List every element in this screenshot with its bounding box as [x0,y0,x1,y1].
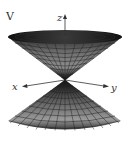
double-cone-figure: V [0,0,131,142]
panel-label: V [5,10,15,23]
upper-cone [8,30,122,80]
z-axis-label: z [56,12,63,23]
y-axis-label: y [110,82,117,93]
z-axis-arrow-icon [63,14,67,19]
y-axis-arrow-icon [103,84,109,88]
x-axis-label: x [12,81,18,92]
x-axis-arrow-icon [22,84,28,88]
